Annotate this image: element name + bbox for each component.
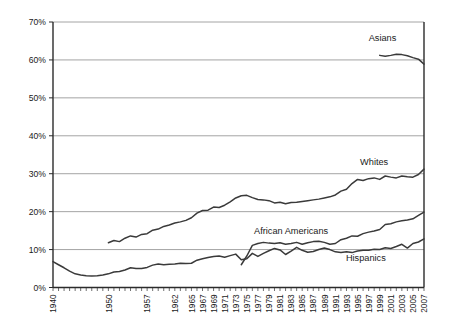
x-axis-tick-label: 1987 [309, 294, 318, 313]
x-axis-tick-label: 1962 [171, 294, 180, 313]
x-axis-tick-label: 1957 [143, 294, 152, 313]
series-label-whites: Whites [360, 157, 388, 167]
x-axis-tick-label: 1971 [221, 294, 230, 313]
series-label-hispanics: Hispanics [346, 253, 386, 263]
line-chart: 0%10%20%30%40%50%60%70% 1940195019571962… [0, 0, 450, 331]
x-axis-tick-label: 1979 [265, 294, 274, 313]
x-axis-tick-label: 1995 [354, 294, 363, 313]
x-axis-tick-label: 2003 [398, 294, 407, 313]
x-axis-tick-label: 1993 [343, 294, 352, 313]
data-line-asians [380, 54, 424, 64]
y-axis-tick-label: 30% [29, 169, 47, 179]
x-axis-tick-label: 2005 [409, 294, 418, 313]
y-axis-tick-label: 60% [29, 55, 47, 65]
x-axis-tick-label: 1983 [287, 294, 296, 313]
y-axis-tick-label: 50% [29, 93, 47, 103]
x-axis-tick-label: 1999 [376, 294, 385, 313]
x-axis-tick-label: 2007 [420, 294, 429, 313]
x-axis-tick-label: 1965 [188, 294, 197, 313]
y-axis-tick-label: 40% [29, 131, 47, 141]
chart-container: 0%10%20%30%40%50%60%70% 1940195019571962… [0, 0, 450, 331]
x-axis-tick-label: 1969 [210, 294, 219, 313]
series-labels-group: AsiansWhitesAfrican AmericansHispanics [254, 33, 397, 263]
x-axis-tick-label: 1940 [49, 294, 58, 313]
x-axis-labels-group: 1940195019571962196519671969197119731975… [49, 294, 429, 313]
y-axis-tick-label: 20% [29, 207, 47, 217]
x-axis-tick-label: 1991 [332, 294, 341, 313]
x-axis-tick-label: 1967 [199, 294, 208, 313]
y-axis-tick-label: 10% [29, 245, 47, 255]
x-axis-tick-label: 1997 [365, 294, 374, 313]
x-axis-tick-label: 1977 [254, 294, 263, 313]
x-axis-tick-label: 1950 [105, 294, 114, 313]
x-axis-tick-label: 1975 [243, 294, 252, 313]
x-axis-tick-label: 1981 [276, 294, 285, 313]
data-line-african-americans [241, 212, 424, 265]
y-axis-tick-label: 0% [34, 283, 47, 293]
x-axis-tick-label: 2001 [387, 294, 396, 313]
x-axis-tick-label: 1973 [232, 294, 241, 313]
gridlines-group [53, 22, 424, 250]
y-axis-tick-label: 70% [29, 17, 47, 27]
y-axis-labels-group: 0%10%20%30%40%50%60%70% [29, 17, 47, 293]
series-label-asians: Asians [369, 33, 397, 43]
x-axis-tick-label: 1989 [321, 294, 330, 313]
series-label-african-americans: African Americans [254, 226, 328, 236]
x-axis-tick-label: 1985 [298, 294, 307, 313]
